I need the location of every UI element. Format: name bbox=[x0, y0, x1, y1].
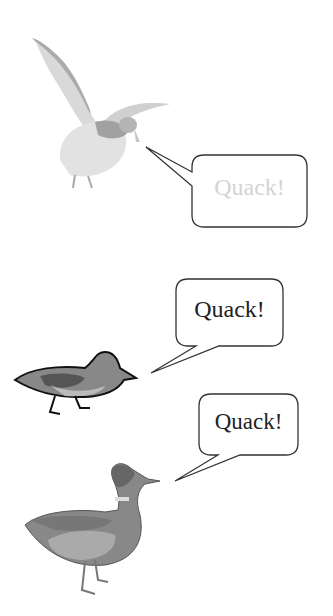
bubble-2-text: Quack! bbox=[176, 296, 283, 323]
illustration bbox=[0, 0, 333, 616]
standing-mallard-icon bbox=[25, 464, 160, 594]
speech-bubble-3 bbox=[175, 394, 298, 481]
bubble-1-text: Quack! bbox=[192, 174, 307, 201]
walking-duck-icon bbox=[15, 352, 136, 414]
flying-duck-icon bbox=[32, 38, 170, 188]
speech-bubble-2 bbox=[151, 279, 283, 373]
bubble-3-text: Quack! bbox=[199, 409, 298, 435]
duck-scene: Quack! Quack! Quack! bbox=[0, 0, 333, 616]
